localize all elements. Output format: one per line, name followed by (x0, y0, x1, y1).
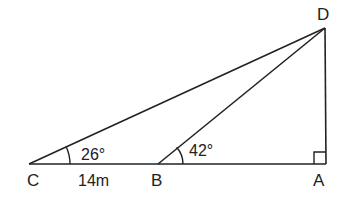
point-label-a: A (313, 171, 325, 190)
angle-arc-c (66, 147, 70, 164)
point-label-d: D (317, 5, 329, 24)
measurement-label-cb: 14m (78, 172, 109, 189)
point-label-b: B (151, 171, 162, 190)
segment-cd (29, 28, 325, 164)
angle-arc-b (177, 147, 183, 164)
segment-ad (325, 28, 326, 164)
right-angle-marker (314, 152, 326, 164)
angle-label-c: 26° (81, 146, 105, 163)
angle-label-b: 42° (189, 142, 213, 159)
triangle-diagram: D C B A 26° 42° 14m (0, 0, 347, 202)
point-label-c: C (27, 171, 39, 190)
segment-bd (158, 28, 325, 164)
